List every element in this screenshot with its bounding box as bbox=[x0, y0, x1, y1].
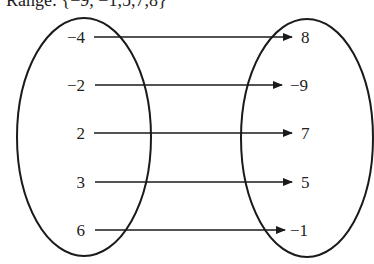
domain-value: 2 bbox=[77, 124, 86, 143]
range-value: 8 bbox=[301, 28, 310, 47]
domain-value: 3 bbox=[77, 173, 86, 192]
range-value: −9 bbox=[290, 76, 308, 95]
range-value: 5 bbox=[301, 173, 310, 192]
range-value: 7 bbox=[301, 124, 310, 143]
domain-value: 6 bbox=[77, 221, 86, 240]
domain-value: −2 bbox=[67, 76, 85, 95]
mapping-diagram: −4 −2 2 3 6 8 −9 7 5 −1 bbox=[0, 0, 374, 264]
range-value: −1 bbox=[290, 221, 308, 240]
domain-value: −4 bbox=[67, 28, 86, 47]
